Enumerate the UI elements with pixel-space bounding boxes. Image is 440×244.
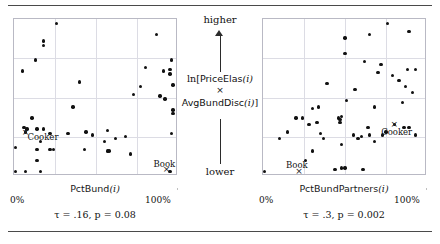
scatter-point: [42, 44, 45, 47]
x-axis-left: PctBund(i) 0% 100%: [13, 181, 177, 207]
scatter-point: [338, 121, 341, 124]
scatter-point: [404, 85, 407, 88]
scatter-point: [39, 170, 42, 173]
y-axis-top-label: higher: [188, 14, 252, 26]
scatter-point: [171, 112, 174, 115]
scatter-point: [66, 132, 69, 135]
scatter-point: [158, 94, 161, 97]
scatter-point: [42, 39, 45, 42]
gridline-vertical: [386, 19, 387, 174]
scatter-point: [343, 52, 346, 55]
scatter-point: [103, 140, 106, 143]
highlight-label-cooker: Cooker: [27, 133, 58, 142]
y-axis-label-times: ×: [178, 85, 262, 96]
scatter-point: [401, 101, 404, 104]
scatter-point: [345, 99, 348, 102]
stat-caption-left: τ = .16, p = 0.08: [13, 209, 177, 221]
scatter-point: [30, 116, 33, 119]
x-axis-tick-min-right: 0%: [259, 195, 273, 206]
scatter-point: [322, 137, 325, 140]
scatter-point: [107, 149, 110, 152]
scatter-point: [319, 132, 322, 135]
scatter-point: [352, 133, 355, 136]
scatter-point: [163, 97, 166, 100]
scatter-point: [411, 91, 414, 94]
y-axis-spine-upper: [220, 36, 221, 72]
scatter-point: [343, 36, 346, 39]
gridline-vertical: [55, 19, 56, 174]
y-axis-label: ln[PriceElas(i) × AvgBundDisc(i)]: [178, 72, 262, 109]
scatter-point: [353, 88, 356, 91]
y-axis-shared: higher ln[PriceElas(i) × AvgBundDisc(i)]…: [188, 14, 252, 189]
scatter-point: [368, 33, 371, 36]
figure-top-rule: [8, 5, 432, 6]
gridline-vertical: [96, 19, 97, 174]
scatter-point: [132, 93, 135, 96]
scatter-point: [311, 107, 314, 110]
scatter-point: [340, 115, 343, 118]
scatter-point: [311, 149, 314, 152]
scatter-point: [78, 80, 81, 83]
scatter-point: [315, 121, 318, 124]
scatter-point: [14, 146, 17, 149]
scatter-point: [317, 105, 320, 108]
figure-bottom-rule: [8, 231, 432, 232]
scatter-point: [340, 143, 343, 146]
scatter-point: [24, 170, 27, 173]
scatter-point: [406, 68, 409, 71]
scatter-point: [106, 129, 109, 132]
y-axis-spine-lower: [220, 119, 221, 164]
scatter-point: [379, 63, 382, 66]
scatter-point: [168, 72, 171, 75]
scatter-point: [52, 148, 55, 151]
scatter-point: [301, 116, 304, 119]
scatter-point: [170, 132, 173, 135]
scatter-point: [155, 33, 158, 36]
highlight-label-cooker: Cooker: [381, 128, 412, 137]
scatter-point: [124, 135, 127, 138]
scatter-point: [84, 130, 87, 133]
gridline-vertical: [304, 19, 305, 174]
scatter-point: [397, 79, 400, 82]
scatter-point: [139, 85, 142, 88]
x-axis-tick-max-left: 100%: [145, 195, 171, 206]
scatter-point: [129, 152, 132, 155]
scatter-point: [35, 148, 38, 151]
scatter-point: [294, 116, 297, 119]
scatter-point: [278, 137, 281, 140]
scatter-point: [363, 60, 366, 63]
scatter-point: [366, 126, 369, 129]
scatter-point: [21, 69, 24, 72]
scatter-point: [361, 168, 364, 171]
scatter-point: [333, 168, 336, 171]
gridline-horizontal: [263, 58, 425, 59]
scatter-point: [373, 105, 376, 108]
highlight-label-book: Book: [286, 161, 308, 170]
y-axis-bottom-label: lower: [188, 166, 252, 178]
highlight-label-book: Book: [154, 160, 176, 169]
scatter-point: [171, 83, 174, 86]
scatter-point: [83, 148, 86, 151]
gridline-vertical: [345, 19, 346, 174]
scatter-point: [114, 137, 117, 140]
scatter-point: [414, 133, 417, 136]
scatter-point: [356, 137, 359, 140]
scatter-point: [343, 166, 346, 169]
scatter-point: [407, 30, 410, 33]
scatter-point: [71, 105, 74, 108]
scatter-point: [35, 127, 38, 130]
gridline-horizontal: [263, 98, 425, 99]
scatter-point: [414, 68, 417, 71]
x-axis-right: PctBundPartners(i) 0% 100%: [262, 181, 426, 207]
scatter-point: [168, 68, 171, 71]
gridline-horizontal: [14, 98, 176, 99]
plot-area-left: ×Cooker×Book: [13, 18, 177, 175]
scatter-point: [391, 74, 394, 77]
scatter-point: [34, 58, 37, 61]
scatter-point: [42, 127, 45, 130]
scatter-point: [376, 71, 379, 74]
scatter-point: [360, 135, 363, 138]
stat-caption-right: τ = .3, p = 0.002: [262, 209, 426, 221]
scatter-point: [325, 82, 328, 85]
scatter-point: [35, 159, 38, 162]
